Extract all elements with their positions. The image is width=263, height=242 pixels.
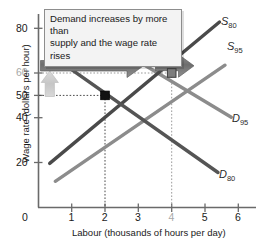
curve-label-s80: S80	[221, 15, 237, 30]
x-tick-label-5: 5	[202, 211, 208, 223]
x-tick-label-4: 4	[169, 211, 175, 223]
curve-label-d95: D95	[232, 112, 248, 127]
x-axis-title: Labour (thousands of hours per day)	[72, 227, 226, 238]
annotation-box: Demand increases by more than supply and…	[44, 9, 182, 67]
x-tick-label-3: 3	[135, 211, 141, 223]
x-tick-label-2: 2	[102, 211, 108, 223]
x-tick-label-6: 6	[235, 211, 241, 223]
y-axis-title: Wage rate (dollars per hour)	[20, 29, 31, 179]
annotation-line-1: Demand increases by more than	[50, 13, 176, 37]
curve-s95	[55, 65, 225, 181]
supply-demand-chart: Demand increases by more than supply and…	[0, 0, 263, 242]
curve-label-s95: S95	[227, 40, 243, 55]
annotation-line-2: supply and the wage rate rises	[50, 37, 176, 61]
equilibrium-point-1980	[101, 91, 110, 100]
y-tick-label-0: 0	[22, 211, 28, 223]
curve-label-d80: D80	[219, 168, 235, 183]
x-tick-label-1: 1	[69, 211, 75, 223]
equilibrium-point-1995	[167, 69, 176, 78]
wage-rise-arrow	[41, 71, 58, 97]
